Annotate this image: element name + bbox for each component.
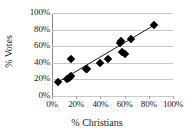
x-tick-labels: 0%20%40%60%80%100% (0, 99, 194, 113)
x-tick-mark (125, 96, 126, 99)
y-axis-title: % Votes (3, 17, 14, 87)
gridline (52, 30, 173, 31)
x-tick-label: 40% (92, 99, 108, 109)
x-tick-mark (173, 96, 174, 99)
x-tick-mark (76, 96, 77, 99)
x-tick-label: 20% (68, 99, 84, 109)
x-axis-title: % Christians (0, 117, 194, 128)
x-tick-mark (100, 96, 101, 99)
y-tick-label: 100% (16, 8, 50, 17)
x-tick-label: 100% (163, 99, 183, 109)
x-tick-label: 0% (46, 99, 58, 109)
x-tick-label: 80% (141, 99, 157, 109)
gridline (52, 13, 173, 14)
gridline (52, 96, 173, 97)
x-tick-mark (149, 96, 150, 99)
y-tick-label: 80% (16, 25, 50, 34)
gridline (52, 46, 173, 47)
y-tick-label: 20% (16, 74, 50, 83)
scatter-chart: 0%20%40%60%80%100% 0%20%40%60%80%100% % … (0, 0, 194, 137)
y-tick-label: 60% (16, 41, 50, 50)
x-tick-label: 60% (117, 99, 133, 109)
x-tick-mark (52, 96, 53, 99)
y-tick-label: 40% (16, 58, 50, 67)
